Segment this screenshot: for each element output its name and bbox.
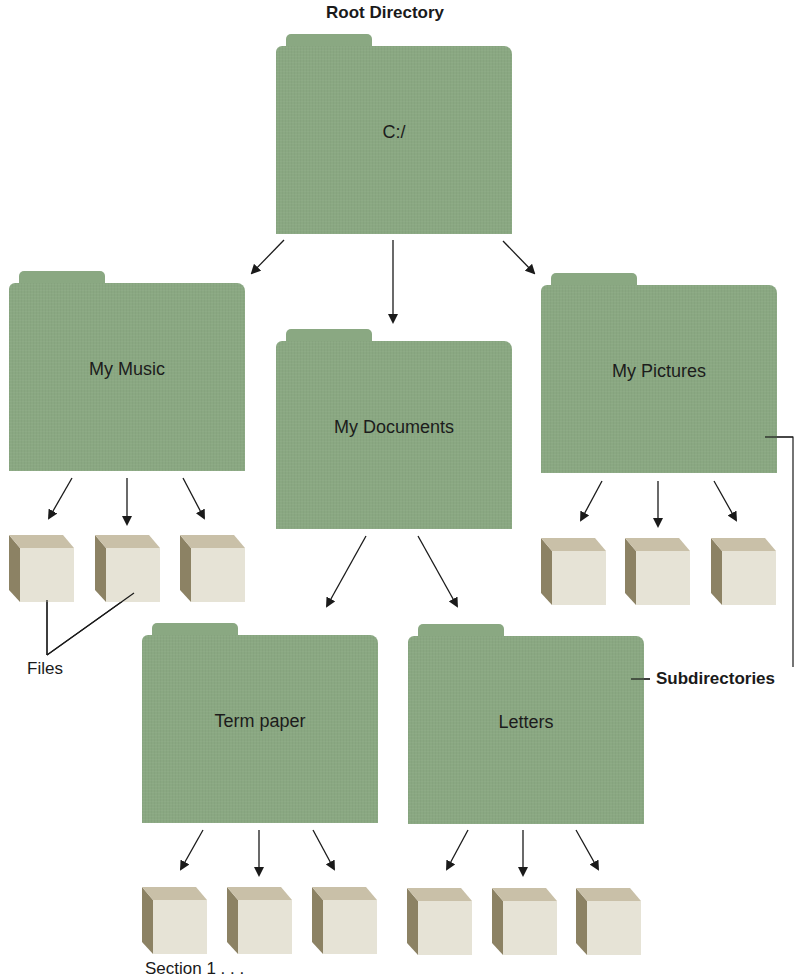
file-cube-icon[interactable] [8, 534, 74, 602]
file-cube-icon[interactable] [179, 534, 245, 602]
folder-term-paper-label: Term paper [142, 711, 378, 732]
file-cube-icon[interactable] [226, 886, 292, 954]
folder-root[interactable]: C:/ [276, 34, 512, 234]
folder-my-documents[interactable]: My Documents [276, 329, 512, 529]
file-cube-icon[interactable] [94, 534, 160, 602]
folder-letters[interactable]: Letters [408, 624, 644, 824]
files-pointer-lines [47, 593, 134, 655]
folder-my-music[interactable]: My Music [9, 271, 245, 471]
folder-my-pictures[interactable]: My Pictures [541, 273, 777, 473]
subdirectories-label: Subdirectories [656, 669, 775, 689]
folder-letters-label: Letters [408, 712, 644, 733]
file-cube-icon[interactable] [406, 887, 472, 955]
file-cube-icon[interactable] [311, 886, 377, 954]
folder-root-label: C:/ [276, 122, 512, 143]
files-label: Files [27, 659, 63, 679]
file-cube-icon[interactable] [540, 537, 606, 605]
file-cube-icon[interactable] [710, 537, 776, 605]
folder-term-paper[interactable]: Term paper [142, 623, 378, 823]
file-cube-icon[interactable] [624, 537, 690, 605]
folder-my-music-label: My Music [9, 359, 245, 380]
file-cube-icon[interactable] [141, 886, 207, 954]
file-cube-icon[interactable] [491, 887, 557, 955]
file-cube-icon[interactable] [575, 887, 641, 955]
folder-my-pictures-label: My Pictures [541, 361, 777, 382]
section-label: Section 1 . . . [145, 959, 244, 979]
folder-my-documents-label: My Documents [276, 417, 512, 438]
